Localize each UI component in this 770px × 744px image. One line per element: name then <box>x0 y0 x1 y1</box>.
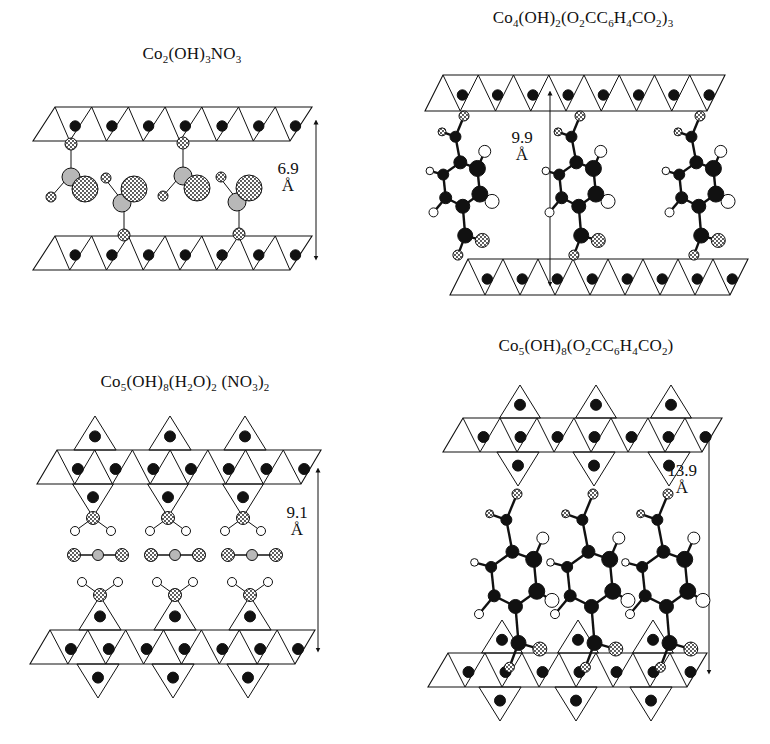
co-atom <box>438 169 449 180</box>
hydrogen-atom <box>264 578 273 587</box>
interlayer-distance-label: 9.1 Å <box>286 504 307 538</box>
formula-text: CO <box>632 8 656 27</box>
co-atom <box>591 399 602 410</box>
co-atom <box>440 192 452 204</box>
oxygen-atom <box>711 233 725 247</box>
hydrogen-atom <box>189 578 198 587</box>
bond-line <box>165 107 180 141</box>
bond-line <box>246 450 264 484</box>
hydroxide-layer <box>33 236 312 270</box>
co-atom <box>674 169 685 180</box>
hydrogen-atom <box>228 578 237 587</box>
oxygen-atom <box>554 128 562 136</box>
hydrogen-atom <box>545 593 559 607</box>
co-atom <box>570 156 583 169</box>
formula-text: (OH) <box>126 372 163 391</box>
co-atom <box>450 131 461 142</box>
water-molecule <box>228 578 273 602</box>
figure-co-hydroxide-layered-structures: Co2(OH)3NO3 Co4(OH)2(O2CC6H4CO2)3 Co5(OH… <box>0 0 770 744</box>
co-atom <box>626 432 637 443</box>
co-atom <box>657 545 670 558</box>
co-atom <box>513 460 524 471</box>
oxygen-atom <box>609 642 623 656</box>
nitrate-group <box>216 172 262 240</box>
oxygen-atom <box>65 138 77 150</box>
oxygen-atom <box>68 549 81 562</box>
oxygen-atom <box>475 233 489 247</box>
oxygen-atom <box>533 642 547 656</box>
co-atom <box>90 431 101 442</box>
hydrogen-atom <box>595 145 607 157</box>
oxygen-atom <box>674 128 682 136</box>
hydrogen-atom <box>71 527 80 536</box>
terephthalate-molecule <box>662 111 735 260</box>
co-atom <box>238 492 249 503</box>
hydrogen-atom <box>471 559 479 567</box>
oxygen-atom <box>504 662 514 672</box>
co-atom <box>637 561 648 572</box>
bond-line <box>596 653 613 687</box>
bond-line <box>202 107 217 141</box>
bond-line <box>275 107 290 141</box>
formula-text: (OH) <box>519 8 556 27</box>
co-atom <box>574 228 589 243</box>
hydrogen-atom <box>547 559 555 567</box>
bond-line <box>239 630 257 664</box>
co-atom <box>571 695 582 706</box>
bond-line <box>275 236 290 270</box>
formula-subscript: 3 <box>668 17 674 29</box>
bond-line <box>463 418 480 452</box>
co-atom <box>589 432 600 443</box>
oxygen-atom <box>193 549 206 562</box>
hydrogen-atom <box>613 532 625 544</box>
co-atom <box>686 131 697 142</box>
co-atom <box>552 432 563 443</box>
co-atom <box>506 545 519 558</box>
formula-text: H <box>614 8 626 27</box>
oxygen-atom <box>689 250 699 260</box>
panel-co5-oh8-terephthalate <box>428 385 722 721</box>
bond-line <box>574 418 591 452</box>
oxygen-atom <box>145 549 158 562</box>
bond-line <box>165 236 180 270</box>
bond-line <box>57 450 75 484</box>
distance-unit: Å <box>286 521 307 538</box>
oxygen-atom <box>453 250 463 260</box>
co-atom <box>605 583 621 599</box>
bond-line <box>239 107 254 141</box>
formula-text: Co <box>493 8 513 27</box>
nitrogen-atom <box>247 550 258 561</box>
oxygen-atom <box>216 172 226 182</box>
distance-value: 13.9 <box>667 462 697 479</box>
hydrogen-atom <box>545 208 554 217</box>
co-atom <box>290 121 300 131</box>
co-atom <box>511 635 526 650</box>
formula-text: NO <box>211 44 236 63</box>
co-atom <box>692 199 706 213</box>
bond-line <box>128 107 143 141</box>
hydrogen-atom <box>715 145 727 157</box>
bond-line <box>92 236 107 270</box>
hydrogen-atom <box>146 527 155 536</box>
bond-line <box>50 630 68 664</box>
panel-co2-oh3-no3 <box>33 107 316 270</box>
water-molecule <box>221 512 266 536</box>
co-atom <box>646 695 657 706</box>
oxygen-atom <box>72 176 98 202</box>
formula-text: O) <box>193 372 211 391</box>
oxygen-atom <box>591 233 605 247</box>
formula-text: (NO <box>217 372 252 391</box>
hydrogen-atom <box>551 610 560 619</box>
co-atom <box>677 551 693 567</box>
panel-co5-oh8-water-nitrate <box>30 416 321 698</box>
co-atom <box>88 492 99 503</box>
hydrogen-atom <box>537 532 549 544</box>
oxygen-atom <box>116 549 129 562</box>
co-atom <box>566 131 577 142</box>
hydrogen-atom <box>257 527 266 536</box>
co-atom <box>680 583 696 599</box>
co-atom <box>488 590 500 602</box>
distance-unit: Å <box>277 177 298 194</box>
oxygen-atom <box>87 512 100 525</box>
co-atom <box>585 160 601 176</box>
